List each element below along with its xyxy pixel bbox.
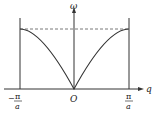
svg-text:a: a <box>126 102 131 111</box>
left-boundary-label: − π a <box>8 92 22 111</box>
omega-label: ω <box>70 1 78 11</box>
right-boundary-label: π a <box>125 92 133 111</box>
q-label: q <box>146 84 152 94</box>
svg-text:a: a <box>15 102 20 111</box>
dispersion-diagram: ω q O − π a π a <box>0 0 156 118</box>
svg-text:−: − <box>8 94 15 103</box>
q-axis-arrow-icon <box>138 87 144 91</box>
svg-text:π: π <box>15 92 20 101</box>
origin-label: O <box>70 94 78 104</box>
svg-text:π: π <box>126 92 131 101</box>
